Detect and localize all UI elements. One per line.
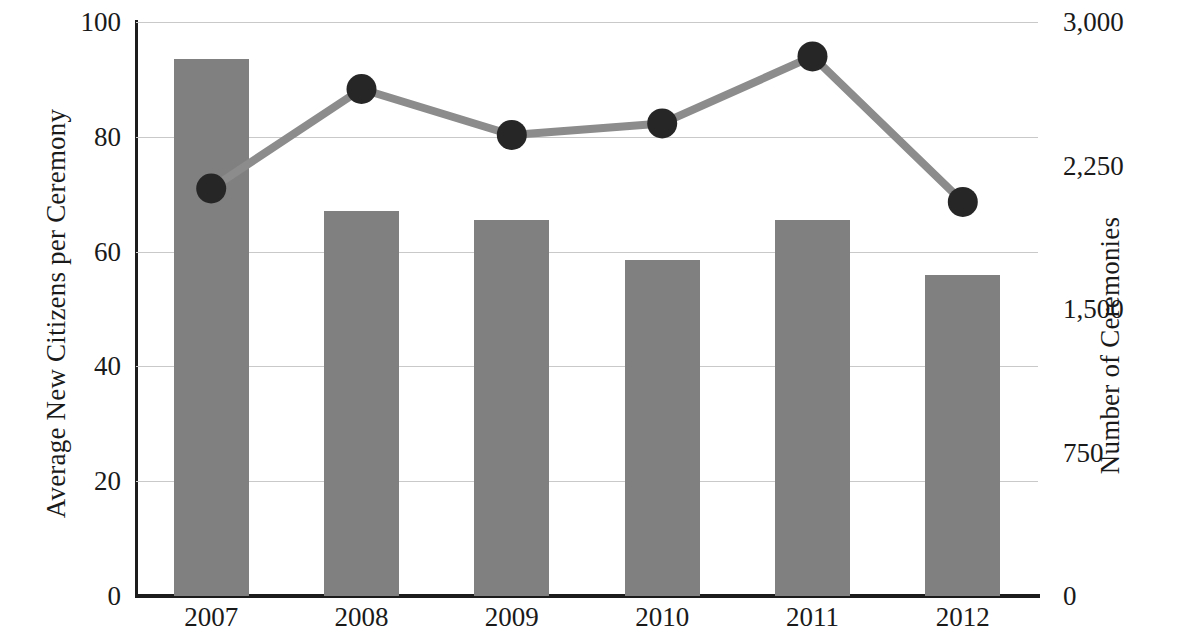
- chart-figure: Average New Citizens per Ceremony Number…: [0, 0, 1198, 643]
- x-axis-tick-label: 2011: [786, 602, 839, 633]
- y-axis-right-tick-label: 0: [1063, 581, 1077, 612]
- line-marker: [196, 174, 226, 204]
- y-axis-left-tick-label: 0: [108, 581, 122, 612]
- line-series: [136, 22, 1038, 596]
- line-marker: [798, 41, 828, 71]
- y-axis-left-title: Average New Citizens per Ceremony: [41, 14, 72, 614]
- y-axis-left-tick-label: 20: [94, 466, 121, 497]
- y-axis-left-tick-label: 80: [94, 121, 121, 152]
- line-marker: [647, 108, 677, 138]
- line-path: [211, 56, 963, 202]
- line-marker: [497, 120, 527, 150]
- y-axis-right-tick-label: 1,500: [1063, 294, 1124, 325]
- x-axis-tick-label: 2012: [936, 602, 990, 633]
- y-axis-left-tick-label: 60: [94, 236, 121, 267]
- y-axis-left-tick-label: 40: [94, 351, 121, 382]
- plot-area: [136, 22, 1038, 596]
- y-axis-right-tick-label: 2,250: [1063, 150, 1124, 181]
- x-axis-tick-label: 2007: [184, 602, 238, 633]
- y-axis-right-tick-label: 3,000: [1063, 7, 1124, 38]
- x-axis-tick-label: 2010: [635, 602, 689, 633]
- y-axis-left-tick-label: 100: [81, 7, 122, 38]
- line-marker: [347, 74, 377, 104]
- line-marker: [948, 187, 978, 217]
- y-axis-right-title: Number of Ceremonies: [1095, 126, 1126, 566]
- x-axis-tick-label: 2008: [335, 602, 389, 633]
- x-axis-tick-label: 2009: [485, 602, 539, 633]
- y-axis-right-tick-label: 750: [1063, 437, 1104, 468]
